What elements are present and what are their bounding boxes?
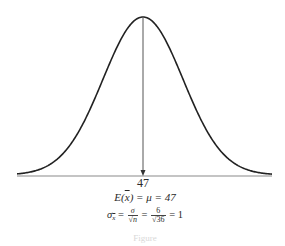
fraction-1-denominator: √n [128, 216, 138, 224]
fraction-2-denominator: √36 [151, 216, 165, 224]
expectation-equation: E(x) = μ = 47 [60, 191, 230, 203]
mean-tick-label: 47 [128, 176, 158, 191]
fraction-sigma-over-root-n: σ√n [128, 207, 138, 224]
bell-curve [17, 17, 272, 174]
std-error-equation: σx = σ√n = 6√36 = 1 [60, 207, 230, 224]
fraction-6-over-root-36: 6√36 [151, 207, 165, 224]
expectation-lhs: E( [114, 191, 124, 203]
equals-1: = [115, 209, 126, 220]
figure-caption: Figure [100, 233, 190, 243]
equals-result: = 1 [167, 209, 183, 220]
equals-2: = [139, 209, 150, 220]
expectation-rhs: ) = μ = 47 [130, 191, 176, 203]
